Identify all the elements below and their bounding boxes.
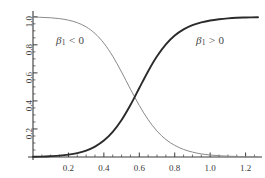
relation-right: > 0 bbox=[209, 34, 224, 46]
annotation-beta-positive: β1 > 0 bbox=[196, 34, 224, 47]
beta-subscript-left: 1 bbox=[62, 38, 66, 47]
x-tick-label: 0.6 bbox=[134, 163, 145, 173]
logistic-curve-figure: 0.20.40.60.81.01.2 0.20.40.60.81.0 β1 < … bbox=[0, 0, 265, 178]
x-tick-label: 0.4 bbox=[98, 163, 109, 173]
x-tick-label: 0.2 bbox=[63, 163, 74, 173]
x-tick-label: 1.2 bbox=[240, 163, 251, 173]
y-tick-label: 1.0 bbox=[24, 16, 34, 27]
x-tick-label: 0.8 bbox=[169, 163, 180, 173]
y-tick-label: 0.8 bbox=[24, 44, 34, 55]
relation-left: < 0 bbox=[69, 34, 84, 46]
y-tick-label: 0.4 bbox=[24, 100, 34, 111]
plot-canvas bbox=[0, 0, 265, 178]
x-tick-label: 1.0 bbox=[205, 163, 216, 173]
beta-subscript-right: 1 bbox=[202, 38, 206, 47]
y-tick-label: 0.2 bbox=[24, 128, 34, 139]
y-tick-label: 0.6 bbox=[24, 72, 34, 83]
annotation-beta-negative: β1 < 0 bbox=[56, 34, 84, 47]
